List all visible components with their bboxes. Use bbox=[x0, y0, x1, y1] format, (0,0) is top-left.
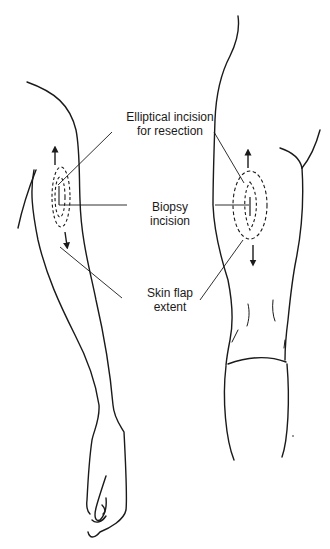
leader-elliptical-left bbox=[58, 132, 112, 185]
right-figure-shoulder-line bbox=[302, 130, 320, 168]
right-figure-tick-left bbox=[232, 330, 238, 342]
right-figure-cuff-top bbox=[228, 358, 286, 364]
label-elliptical-line2: for resection bbox=[108, 124, 232, 138]
label-elliptical-line1: Elliptical incision bbox=[108, 110, 232, 124]
label-biopsy-line2: incision bbox=[128, 214, 212, 228]
right-forearm-left-contour bbox=[224, 366, 234, 460]
label-skin-flap-extent: Skin flap extent bbox=[123, 286, 217, 314]
left-hand-thumb bbox=[95, 476, 106, 520]
right-figure-right-contour bbox=[285, 168, 303, 360]
leader-elliptical-right bbox=[214, 132, 244, 183]
left-hand-fingertip bbox=[102, 505, 105, 514]
left-arm-shoulder-contour bbox=[27, 82, 126, 537]
right-figure-shoulder-curve bbox=[280, 148, 302, 168]
left-arm-edge-stroke bbox=[18, 170, 36, 228]
label-skinflap-line2: extent bbox=[123, 300, 217, 314]
label-elliptical-incision: Elliptical incision for resection bbox=[108, 110, 232, 138]
label-skinflap-line1: Skin flap bbox=[123, 286, 217, 300]
label-biopsy-line1: Biopsy bbox=[128, 200, 212, 214]
leader-skinflap-left bbox=[60, 247, 122, 298]
left-hand-fold bbox=[92, 516, 106, 522]
left-arm-outer-contour bbox=[32, 170, 99, 514]
right-figure-crease-1 bbox=[247, 304, 249, 326]
speck-dot bbox=[292, 435, 294, 437]
label-biopsy-incision: Biopsy incision bbox=[128, 200, 212, 228]
left-incision-set bbox=[52, 149, 70, 246]
right-forearm-right-contour bbox=[282, 364, 288, 457]
left-arm-figure bbox=[18, 82, 126, 537]
diagram-canvas bbox=[0, 0, 330, 549]
right-arm-figure bbox=[213, 16, 320, 460]
right-figure-crease-2 bbox=[273, 300, 275, 321]
left-arrow-down bbox=[65, 232, 67, 246]
